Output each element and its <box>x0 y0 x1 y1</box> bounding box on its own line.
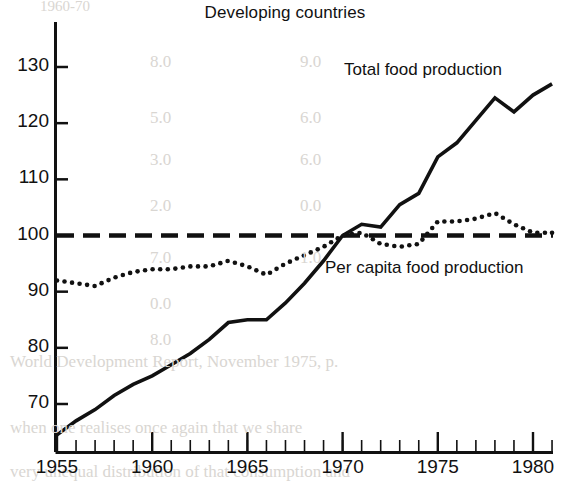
series-label-total: Total food production <box>344 60 502 80</box>
y-tick-label-90: 90 <box>3 279 49 301</box>
chart-figure: 1960-70 8.0 9.0 5.0 6.0 3.0 6.0 2.0 0.0 … <box>0 0 570 491</box>
x-tick-label-1960: 1960 <box>117 456 187 478</box>
x-tick-label-1980: 1980 <box>498 456 568 478</box>
x-tick-label-1955: 1955 <box>22 456 92 478</box>
x-tick-label-1965: 1965 <box>212 456 282 478</box>
y-tick-label-110: 110 <box>3 166 49 188</box>
y-tick-label-100: 100 <box>3 223 49 245</box>
y-tick-label-130: 130 <box>3 54 49 76</box>
y-tick-label-80: 80 <box>3 335 49 357</box>
y-tick-label-70: 70 <box>3 391 49 413</box>
y-tick-label-120: 120 <box>3 110 49 132</box>
chart-title: Developing countries <box>0 3 570 23</box>
x-axis <box>56 432 554 453</box>
series-label-per-capita: Per capita food production <box>325 258 523 278</box>
x-tick-label-1975: 1975 <box>403 456 473 478</box>
x-tick-label-1970: 1970 <box>308 456 378 478</box>
